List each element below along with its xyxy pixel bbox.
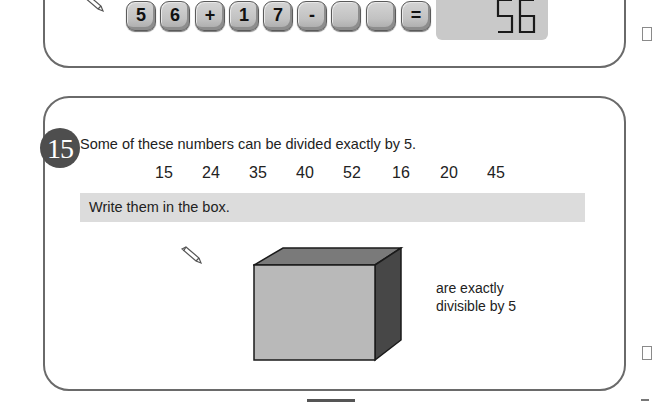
key-equals[interactable]: = (401, 1, 431, 31)
question-prompt: Some of these numbers can be divided exa… (80, 136, 416, 152)
side-checkbox-top[interactable] (642, 27, 652, 41)
key-blank-2[interactable] (366, 1, 396, 31)
number-item: 45 (487, 164, 505, 182)
question-number-badge: 15 (40, 128, 80, 168)
number-list: 15 24 35 40 52 16 20 45 (0, 164, 648, 186)
cube-answer-box[interactable] (253, 247, 405, 363)
key-plus[interactable]: + (195, 1, 225, 31)
display-digits (494, 0, 538, 36)
key-5[interactable]: 5 (126, 1, 156, 31)
pencil-icon (82, 0, 106, 14)
number-item: 52 (343, 164, 361, 182)
key-7[interactable]: 7 (263, 1, 293, 31)
caption-line-2: divisible by 5 (436, 297, 516, 315)
key-1[interactable]: 1 (229, 1, 259, 31)
number-item: 20 (440, 164, 458, 182)
key-minus[interactable]: - (297, 1, 327, 31)
caption-line-1: are exactly (436, 279, 516, 297)
number-item: 15 (155, 164, 173, 182)
number-item: 40 (296, 164, 314, 182)
number-item: 35 (249, 164, 267, 182)
number-item: 16 (392, 164, 410, 182)
instruction-bar: Write them in the box. (80, 193, 585, 222)
pencil-icon (180, 246, 204, 266)
number-item: 24 (202, 164, 220, 182)
instruction-text: Write them in the box. (89, 199, 230, 215)
answer-caption: are exactly divisible by 5 (436, 279, 516, 315)
calculator-display (436, 0, 548, 40)
key-blank-1[interactable] (331, 1, 361, 31)
key-6[interactable]: 6 (160, 1, 190, 31)
side-mark (641, 399, 649, 401)
side-checkbox-bottom[interactable] (642, 346, 652, 360)
